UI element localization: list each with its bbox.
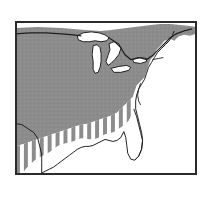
map-canvas [16, 22, 196, 174]
map-figure: Eastern and Central United States [0, 0, 212, 198]
map-frame: Eastern and Central United States [15, 21, 197, 175]
lake-michigan [92, 45, 101, 74]
